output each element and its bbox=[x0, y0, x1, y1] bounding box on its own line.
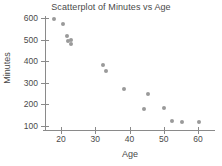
data-point bbox=[162, 106, 166, 110]
data-point bbox=[104, 69, 108, 73]
x-tick-label: 30 bbox=[83, 135, 107, 144]
x-tick-mark bbox=[95, 127, 96, 134]
data-point bbox=[142, 107, 146, 111]
data-point bbox=[61, 22, 65, 26]
y-tick-mark bbox=[41, 61, 49, 62]
y-tick-mark bbox=[41, 18, 49, 19]
plot-area: 100200300400500600 2030405060 bbox=[0, 0, 222, 166]
x-tick-label: 40 bbox=[118, 135, 142, 144]
x-tick-label: 20 bbox=[49, 135, 73, 144]
y-tick-label: 500 bbox=[12, 36, 38, 45]
data-point bbox=[69, 38, 73, 42]
x-tick-mark bbox=[198, 127, 199, 134]
x-tick-mark bbox=[164, 127, 165, 134]
y-tick-label: 100 bbox=[12, 122, 38, 131]
data-point bbox=[180, 120, 184, 124]
y-tick-label: 300 bbox=[12, 79, 38, 88]
x-tick-label: 50 bbox=[152, 135, 176, 144]
x-tick-mark bbox=[61, 127, 62, 134]
data-point bbox=[197, 120, 201, 124]
data-point bbox=[122, 87, 126, 91]
y-tick-mark bbox=[41, 83, 49, 84]
y-tick-mark bbox=[41, 104, 49, 105]
data-point bbox=[65, 34, 69, 38]
y-axis-title: Minutes bbox=[2, 38, 12, 98]
y-tick-mark bbox=[41, 40, 49, 41]
y-tick-label: 200 bbox=[12, 100, 38, 109]
data-point bbox=[101, 63, 105, 67]
data-point bbox=[146, 92, 150, 96]
data-point bbox=[69, 42, 73, 46]
y-tick-label: 600 bbox=[12, 14, 38, 23]
x-tick-label: 60 bbox=[186, 135, 210, 144]
data-point bbox=[170, 119, 174, 123]
scatterplot-figure: Scatterplot of Minutes vs Age 1002003004… bbox=[0, 0, 222, 166]
x-axis-title: Age bbox=[45, 149, 215, 159]
y-axis-line bbox=[45, 16, 46, 130]
y-tick-label: 400 bbox=[12, 57, 38, 66]
y-tick-mark bbox=[41, 126, 49, 127]
x-tick-mark bbox=[130, 127, 131, 134]
data-point bbox=[52, 17, 56, 21]
